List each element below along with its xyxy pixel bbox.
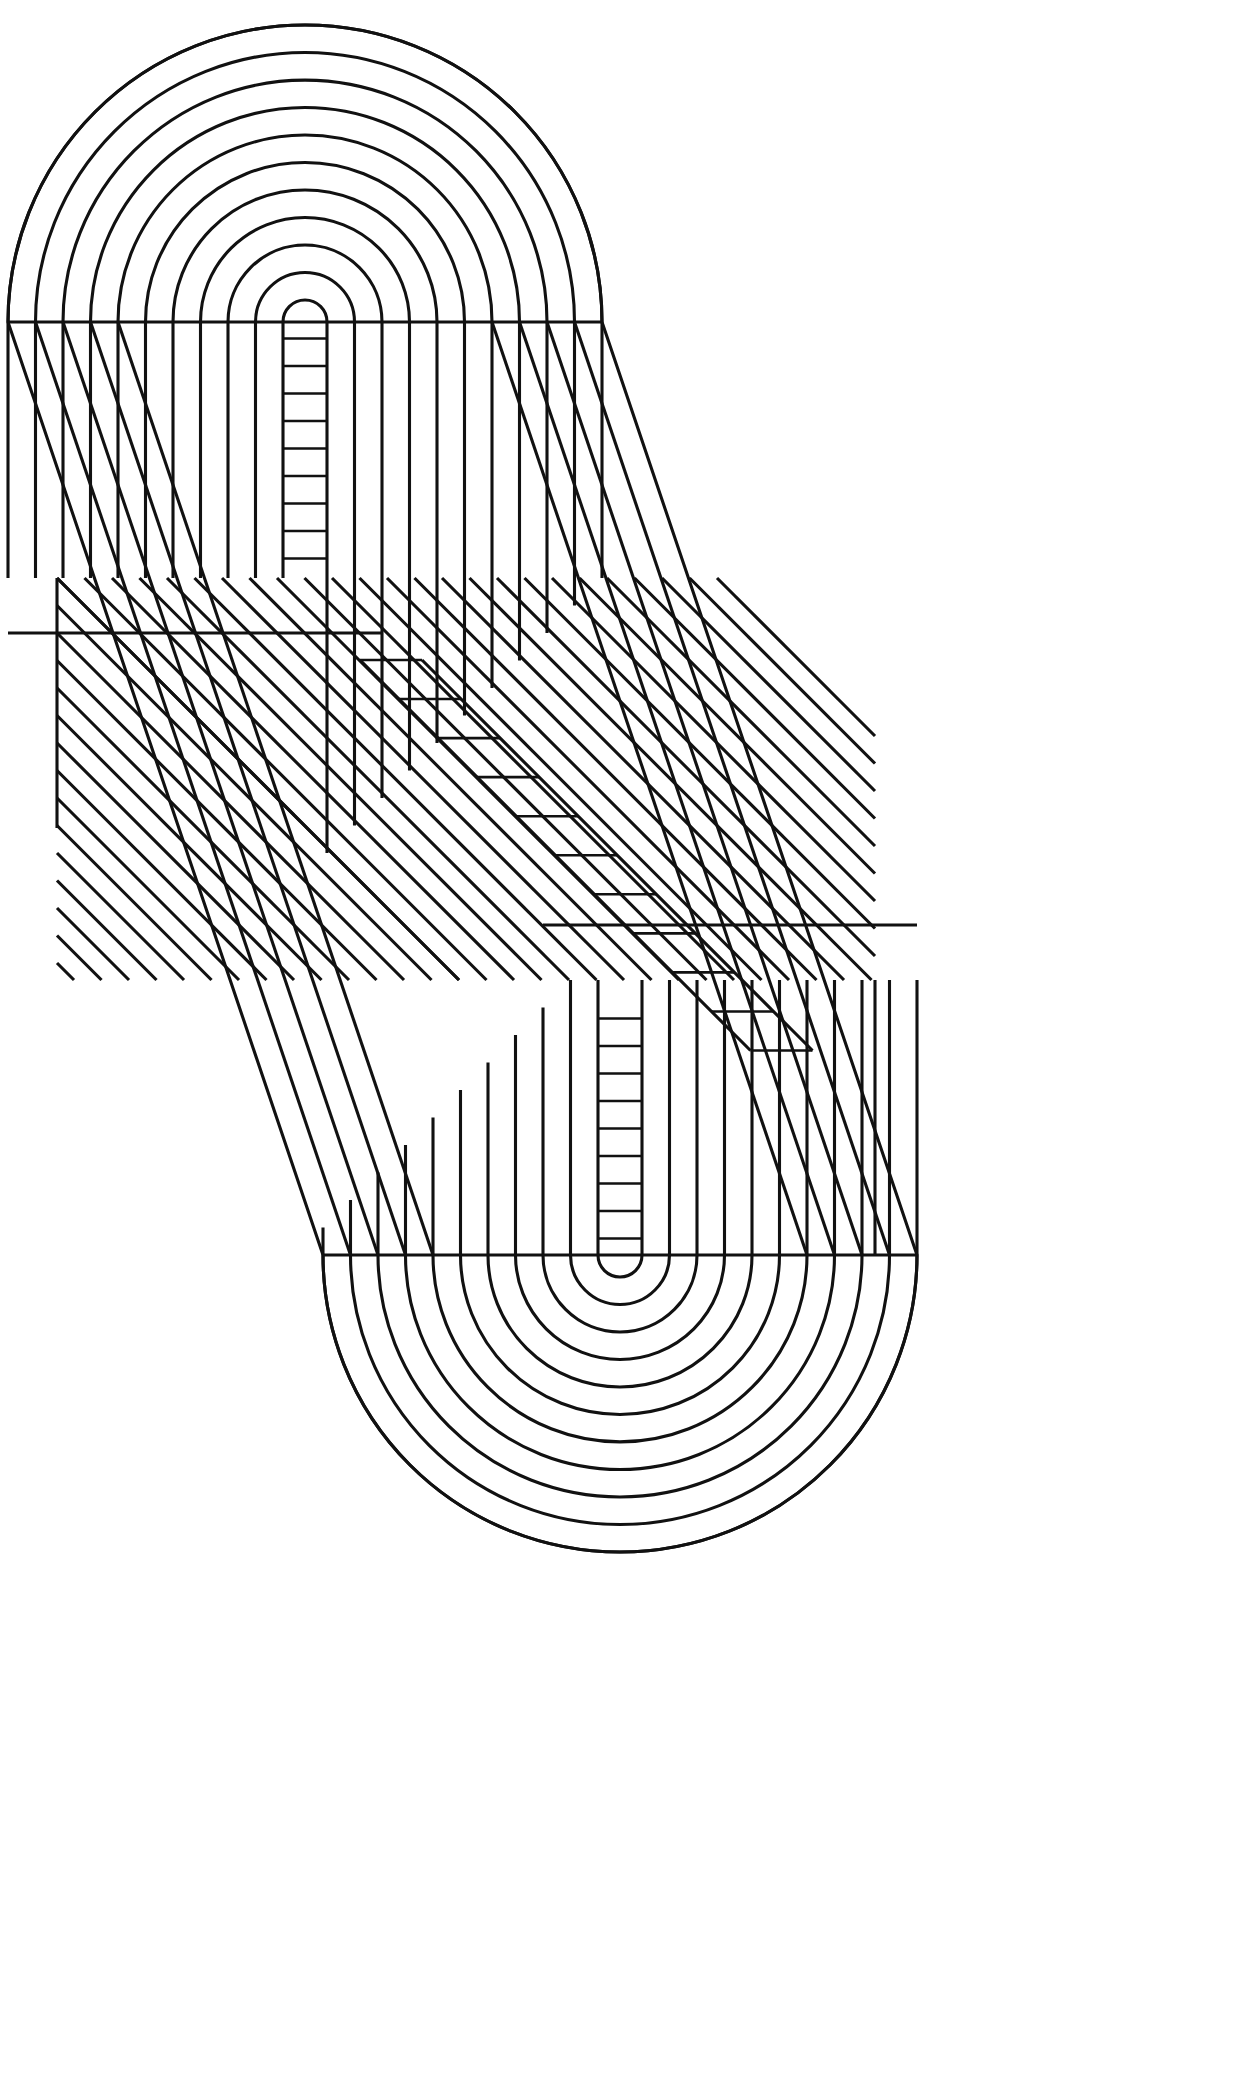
artboard (0, 0, 1256, 2092)
line-drawing-canvas (0, 0, 1256, 2092)
